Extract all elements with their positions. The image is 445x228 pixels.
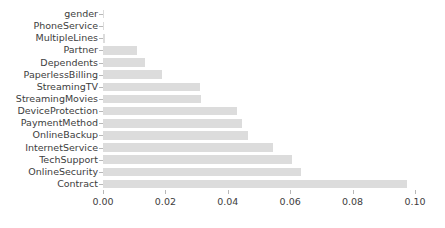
category-tick xyxy=(99,26,103,27)
category-label-DeviceProtection: DeviceProtection xyxy=(17,105,98,117)
bar-fill xyxy=(103,168,301,177)
plot-area xyxy=(103,8,415,190)
category-tick xyxy=(99,111,103,112)
category-label-TechSupport: TechSupport xyxy=(39,154,98,166)
bar-fill xyxy=(103,58,145,67)
bar-MultipleLines xyxy=(103,34,415,43)
category-tick xyxy=(99,123,103,124)
value-tick-label: 0.00 xyxy=(92,196,113,207)
category-tick xyxy=(99,75,103,76)
bar-OnlineSecurity xyxy=(103,168,415,177)
bar-DeviceProtection xyxy=(103,107,415,116)
bar-fill xyxy=(103,131,248,140)
category-label-gender: gender xyxy=(64,8,98,20)
bar-fill xyxy=(103,34,105,43)
category-tick xyxy=(99,160,103,161)
bar-fill xyxy=(103,22,104,31)
bar-StreamingTV xyxy=(103,83,415,92)
category-label-PhoneService: PhoneService xyxy=(33,20,98,32)
category-label-PaperlessBilling: PaperlessBilling xyxy=(24,69,98,81)
value-tick-label: 0.02 xyxy=(155,196,176,207)
bar-fill xyxy=(103,155,292,164)
category-tick xyxy=(99,38,103,39)
bar-PaperlessBilling xyxy=(103,70,415,79)
category-label-MultipleLines: MultipleLines xyxy=(36,32,98,44)
bar-fill xyxy=(103,119,242,128)
value-tick xyxy=(165,190,166,194)
bar-StreamingMovies xyxy=(103,95,415,104)
bar-PaymentMethod xyxy=(103,119,415,128)
value-axis: 0.000.020.040.060.080.10 xyxy=(103,190,415,220)
bar-Partner xyxy=(103,46,415,55)
category-label-PaymentMethod: PaymentMethod xyxy=(21,117,98,129)
category-tick xyxy=(99,172,103,173)
category-tick xyxy=(99,87,103,88)
value-tick xyxy=(103,190,104,194)
bar-fill xyxy=(103,180,407,189)
value-tick-label: 0.04 xyxy=(217,196,238,207)
category-tick xyxy=(99,63,103,64)
category-label-InternetService: InternetService xyxy=(25,142,98,154)
category-tick xyxy=(99,148,103,149)
category-label-Dependents: Dependents xyxy=(40,57,98,69)
value-tick-label: 0.08 xyxy=(342,196,363,207)
value-tick xyxy=(353,190,354,194)
category-tick xyxy=(99,135,103,136)
category-tick xyxy=(99,14,103,15)
value-tick xyxy=(290,190,291,194)
bar-fill xyxy=(103,107,237,116)
bar-fill xyxy=(103,10,104,19)
category-label-Partner: Partner xyxy=(63,44,98,56)
bar-OnlineBackup xyxy=(103,131,415,140)
category-tick xyxy=(99,50,103,51)
category-tick xyxy=(99,184,103,185)
value-tick-label: 0.10 xyxy=(404,196,425,207)
bar-fill xyxy=(103,70,162,79)
category-label-OnlineSecurity: OnlineSecurity xyxy=(28,166,98,178)
bar-PhoneService xyxy=(103,22,415,31)
bar-Contract xyxy=(103,180,415,189)
category-axis-labels: genderPhoneServiceMultipleLinesPartnerDe… xyxy=(0,8,98,190)
bar-fill xyxy=(103,46,137,55)
bar-Dependents xyxy=(103,58,415,67)
value-tick-label: 0.06 xyxy=(280,196,301,207)
category-tick xyxy=(99,99,103,100)
bar-InternetService xyxy=(103,143,415,152)
category-label-StreamingTV: StreamingTV xyxy=(37,81,98,93)
category-label-OnlineBackup: OnlineBackup xyxy=(33,129,98,141)
value-tick xyxy=(415,190,416,194)
bar-fill xyxy=(103,83,200,92)
bar-gender xyxy=(103,10,415,19)
bar-fill xyxy=(103,143,273,152)
bar-fill xyxy=(103,95,201,104)
feature-importance-bar-chart: genderPhoneServiceMultipleLinesPartnerDe… xyxy=(0,0,445,228)
category-label-Contract: Contract xyxy=(57,178,98,190)
bar-TechSupport xyxy=(103,155,415,164)
category-label-StreamingMovies: StreamingMovies xyxy=(16,93,98,105)
value-tick xyxy=(228,190,229,194)
